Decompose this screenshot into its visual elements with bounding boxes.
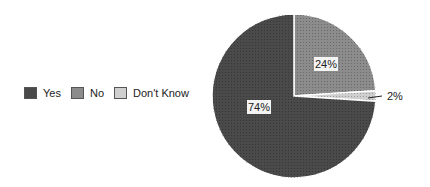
data-label-yes: 74%	[248, 101, 270, 113]
pie-slices	[212, 14, 376, 178]
pie-slice-texture	[294, 14, 376, 96]
pie-chart: 74%24%2%	[0, 0, 430, 187]
data-label-dont-know: 2%	[387, 90, 403, 102]
data-label-no: 24%	[315, 58, 337, 70]
